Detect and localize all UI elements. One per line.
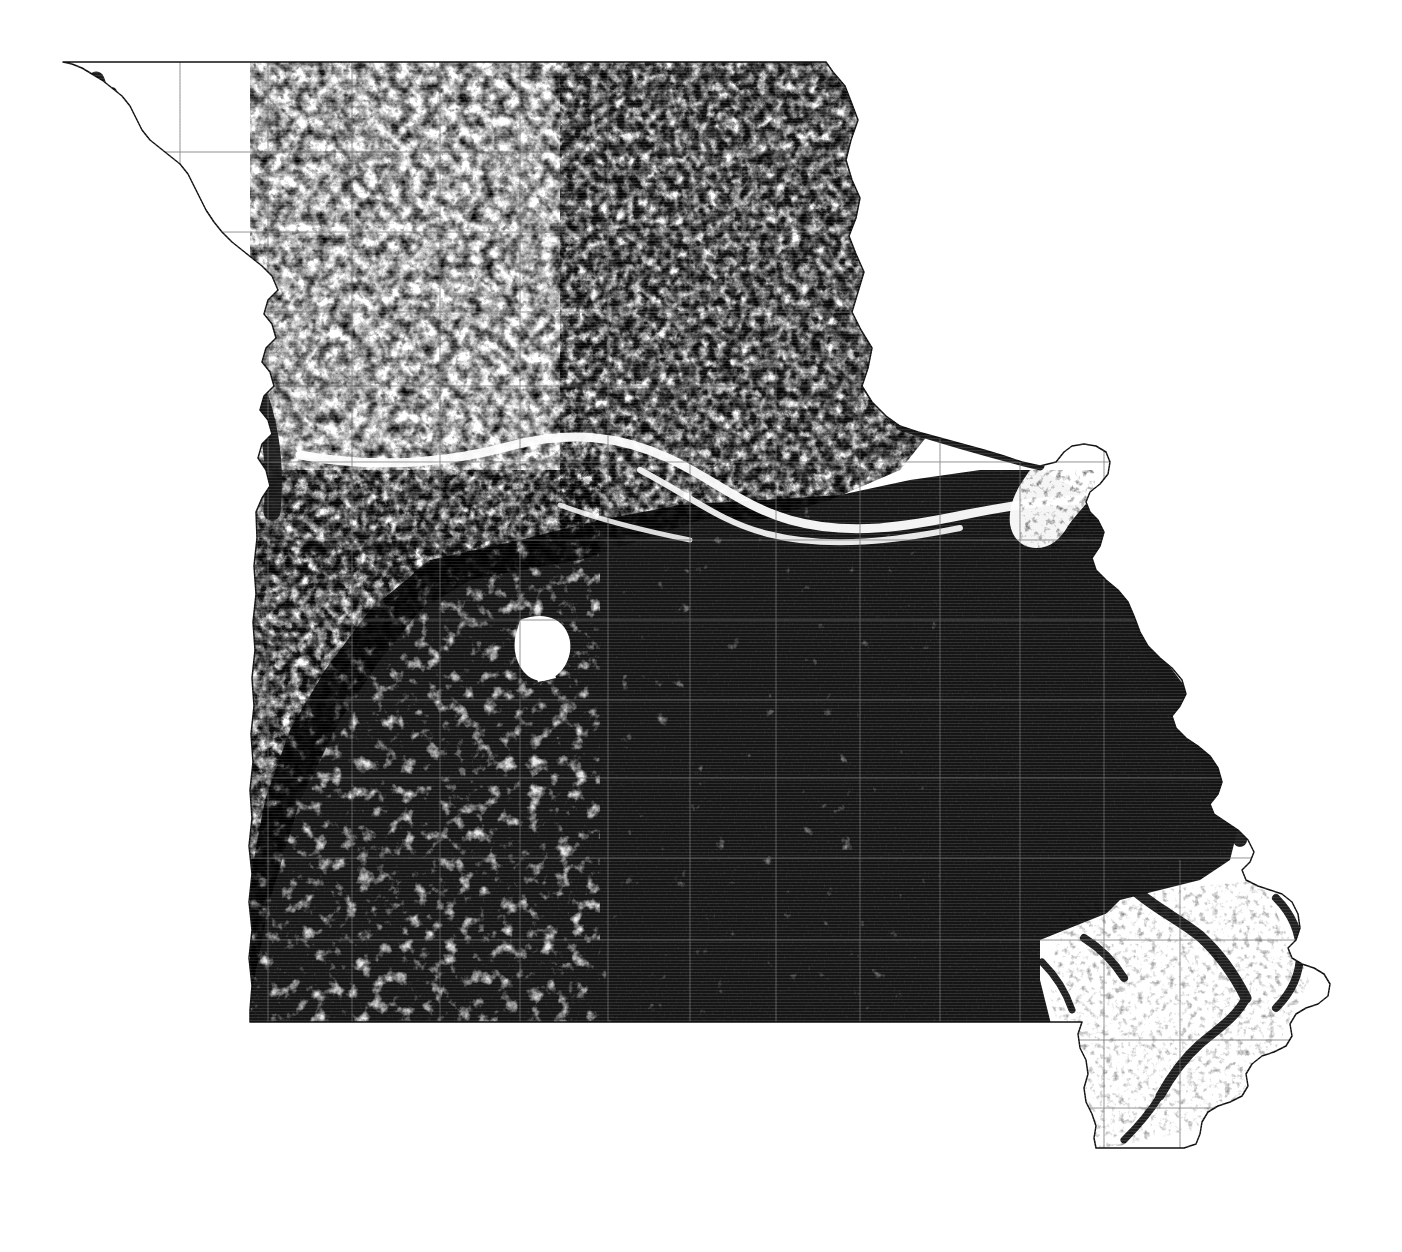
map-plate-page: State of Missouri Forest land Nonforest … bbox=[0, 0, 1402, 1252]
map-svg-canvas bbox=[0, 0, 1402, 1252]
missouri-forest-cover-map bbox=[0, 0, 1402, 1252]
